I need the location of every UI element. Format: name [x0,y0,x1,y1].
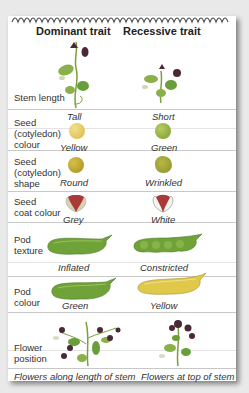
dominant-value: Inflated [58,262,89,273]
dominant-value: Tall [67,111,81,122]
row-label-seed-coat-colour: Seed coat colour [14,196,60,218]
recessive-header: Recessive trait [123,25,201,37]
row-label-seed-shape: Seed (cotyledon) shape [14,156,61,189]
divider [8,191,236,192]
divider [8,109,236,110]
round-seed-icon [68,157,84,173]
grey-seed-coat-icon [64,195,88,213]
constricted-pod-icon [132,232,204,256]
dominant-value: Yellow [60,142,87,153]
label-line: Pod [14,234,43,245]
green-pod-icon [50,276,118,302]
white-seed-coat-icon [151,194,175,213]
row-label-seed-colour: Seed (cotyledon) colour [14,117,61,150]
label-line: shape [14,178,61,189]
label-line: (cotyledon) [14,128,61,139]
dominant-value: Flowers along length of stem [14,371,135,382]
dominant-header: Dominant trait [36,25,111,37]
label-line: texture [14,245,43,256]
flowers-along-stem-icon [50,318,124,368]
label-line: coat colour [14,207,60,218]
divider [8,368,236,369]
label-line: Seed [14,156,61,167]
row-label-flower-position: Flower position [14,342,47,364]
label-line: Flower [14,342,47,353]
divider [8,262,236,263]
tall-plant-icon [50,38,100,110]
recessive-value: Flowers at top of stem [141,371,234,382]
label-line: Seed [14,117,61,128]
flowers-at-top-icon [150,318,206,368]
green-seed-icon [155,123,171,139]
recessive-value: Yellow [150,300,177,311]
row-label-pod-colour: Pod colour [14,286,40,308]
dominant-value: Grey [63,214,84,225]
recessive-value: Short [152,111,175,122]
label-line: position [14,353,47,364]
label-line: colour [14,297,40,308]
divider [8,222,236,223]
dominant-value: Green [62,300,88,311]
recessive-value: Wrinkled [145,177,182,188]
yellow-seed-icon [69,123,85,139]
recessive-value: White [151,214,175,225]
yellow-pod-icon [136,272,208,298]
label-line: Seed [14,196,60,207]
row-label-pod-texture: Pod texture [14,234,43,256]
dominant-value: Round [60,177,88,188]
recessive-value: Green [151,142,177,153]
divider [8,312,236,313]
wrinkled-seed-icon [155,156,172,173]
label-line: Pod [14,286,40,297]
divider [8,150,236,151]
label-line: colour [14,139,61,150]
inflated-pod-icon [46,233,114,257]
label-line: (cotyledon) [14,167,61,178]
short-plant-icon [135,55,187,105]
